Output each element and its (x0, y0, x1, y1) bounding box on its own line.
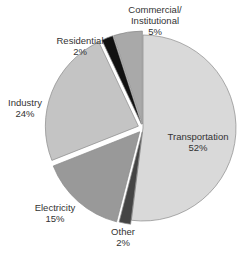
label-electricity: Electricity 15% (30, 202, 80, 224)
label-transportation-name: Transportation (160, 131, 236, 142)
label-electricity-value: 15% (30, 213, 80, 224)
label-transportation: Transportation 52% (160, 131, 236, 153)
label-commercial-line1: Commercial/ (100, 4, 210, 15)
label-transportation-value: 52% (160, 142, 236, 153)
label-industry-value: 24% (2, 108, 48, 119)
label-industry-name: Industry (2, 97, 48, 108)
label-other-value: 2% (103, 237, 143, 248)
label-other-name: Other (103, 226, 143, 237)
label-other: Other 2% (103, 226, 143, 248)
label-residential-value: 2% (50, 46, 110, 57)
label-commercial-line2: Institutional (100, 15, 210, 26)
label-commercial-value: 5% (100, 26, 210, 37)
label-residential: Residential 2% (50, 35, 110, 57)
label-residential-name: Residential (50, 35, 110, 46)
pie-slice-transportation (131, 35, 236, 221)
label-commercial: Commercial/ Institutional 5% (100, 4, 210, 37)
label-electricity-name: Electricity (30, 202, 80, 213)
label-industry: Industry 24% (2, 97, 48, 119)
